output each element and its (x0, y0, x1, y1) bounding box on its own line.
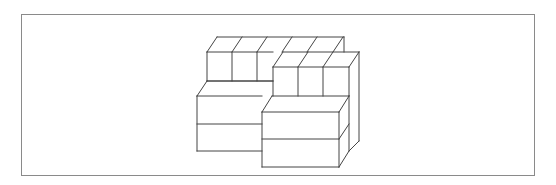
block-stack-diagram (0, 0, 556, 185)
front-lower-box (262, 96, 359, 167)
